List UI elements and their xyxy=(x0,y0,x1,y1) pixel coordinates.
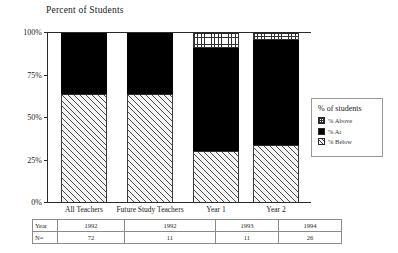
table-cell: 1992 xyxy=(58,220,125,232)
y-tick-label-75: 75% xyxy=(27,70,42,79)
legend-label-above: % Above xyxy=(328,117,352,124)
legend-item-at: % At xyxy=(318,128,377,135)
bar-stack xyxy=(193,33,239,202)
bar-future-study-teachers: Future Study Teachers xyxy=(127,33,173,202)
bar-label: Year 2 xyxy=(266,205,285,214)
segment-above xyxy=(253,33,299,40)
table-row-label-year: Year xyxy=(33,220,58,232)
y-tick-label-50: 50% xyxy=(27,113,42,122)
plot-area: 0% 25% 50% 75% 100% All Teachers Future … xyxy=(47,32,311,203)
segment-at xyxy=(253,40,299,145)
y-axis-line xyxy=(47,32,48,203)
chart-data-table: Year 1992 1992 1993 1994 N= 72 11 11 26 xyxy=(32,219,342,244)
y-tick-label-25: 25% xyxy=(27,155,42,164)
segment-below xyxy=(127,94,173,202)
chart-legend: % of students % Above % At % Below xyxy=(311,98,383,157)
table-row: Year 1992 1992 1993 1994 xyxy=(33,220,342,232)
bar-year-2: Year 2 xyxy=(253,33,299,202)
legend-item-below: % Below xyxy=(318,138,377,145)
x-axis-line xyxy=(47,202,311,203)
legend-title: % of students xyxy=(318,104,377,113)
table-cell: 1994 xyxy=(279,220,342,232)
table-cell: 11 xyxy=(216,232,279,244)
bar-stack xyxy=(253,33,299,202)
table-cell: 11 xyxy=(125,232,216,244)
legend-swatch-above-icon xyxy=(318,117,325,124)
legend-swatch-at-icon xyxy=(318,128,325,135)
legend-swatch-below-icon xyxy=(318,138,325,145)
legend-label-below: % Below xyxy=(328,138,352,145)
segment-at xyxy=(61,33,107,94)
segment-at xyxy=(193,48,239,151)
bar-label: All Teachers xyxy=(65,205,103,214)
y-tick-label-100: 100% xyxy=(23,28,42,37)
segment-above xyxy=(193,33,239,48)
segment-below xyxy=(193,151,239,202)
segment-at xyxy=(127,33,173,94)
bar-label: Year 1 xyxy=(206,205,225,214)
table-cell: 1993 xyxy=(216,220,279,232)
bar-label: Future Study Teachers xyxy=(116,205,183,214)
bar-stack xyxy=(61,33,107,202)
table-row: N= 72 11 11 26 xyxy=(33,232,342,244)
table-cell: 26 xyxy=(279,232,342,244)
legend-label-at: % At xyxy=(328,128,341,135)
table-cell: 1992 xyxy=(125,220,216,232)
chart-title: Percent of Students xyxy=(46,5,124,15)
segment-below xyxy=(253,145,299,202)
segment-below xyxy=(61,94,107,202)
bar-stack xyxy=(127,33,173,202)
bar-year-1: Year 1 xyxy=(193,33,239,202)
bar-all-teachers: All Teachers xyxy=(61,33,107,202)
table-cell: 72 xyxy=(58,232,125,244)
legend-item-above: % Above xyxy=(318,117,377,124)
y-tick-label-0: 0% xyxy=(31,198,42,207)
table-row-label-n: N= xyxy=(33,232,58,244)
